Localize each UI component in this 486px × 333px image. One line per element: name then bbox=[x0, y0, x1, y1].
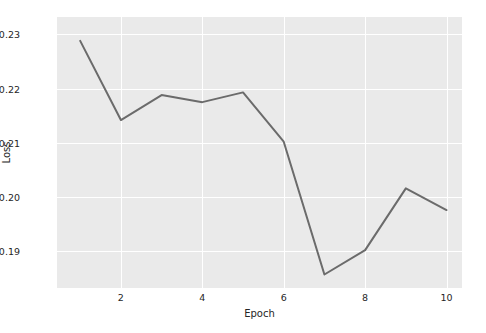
x-axis-tick-label: 2 bbox=[118, 292, 124, 303]
x-axis-label: Epoch bbox=[57, 308, 462, 319]
y-axis-tick-label: 0.19 bbox=[0, 246, 20, 257]
y-axis-tick-label: 0.20 bbox=[0, 191, 20, 202]
x-axis-tick-label: 8 bbox=[362, 292, 368, 303]
x-axis-tick-label: 4 bbox=[199, 292, 205, 303]
plot-area bbox=[57, 17, 462, 288]
loss-vs-epoch-chart: Loss 0.230.220.210.200.19 246810 Epoch bbox=[0, 0, 486, 333]
loss-line-series bbox=[57, 17, 462, 288]
loss-polyline bbox=[80, 41, 446, 275]
y-axis-tick-label: 0.22 bbox=[0, 83, 20, 94]
x-axis-tick-label: 10 bbox=[440, 292, 452, 303]
x-axis-tick-label: 6 bbox=[281, 292, 287, 303]
y-axis-tick-label: 0.23 bbox=[0, 29, 20, 40]
y-axis-tick-label: 0.21 bbox=[0, 137, 20, 148]
